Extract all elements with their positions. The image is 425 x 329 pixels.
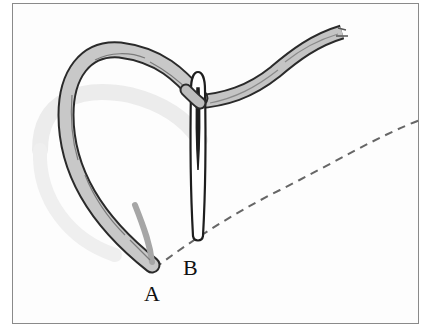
point-a-label: A: [144, 283, 160, 305]
point-b-label: B: [183, 257, 198, 279]
thread-tail: [196, 28, 348, 103]
stitch-illustration: [0, 0, 425, 329]
